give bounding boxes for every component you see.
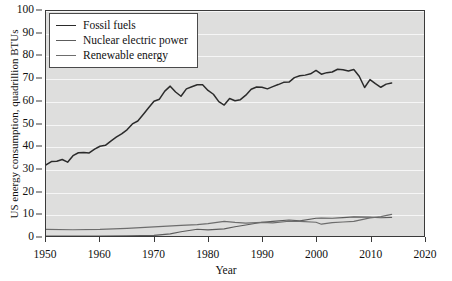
y-tick-mark (36, 123, 42, 124)
x-tick-mark (208, 237, 209, 242)
x-tick-label: 1960 (88, 248, 111, 260)
series-line-fossil-fuels (46, 69, 392, 165)
y-axis: US energy consumption, quadrillion BTUs … (0, 0, 45, 247)
x-tick-label: 1980 (196, 248, 219, 260)
x-tick-label: 2020 (414, 248, 437, 260)
y-tick-label: 10 (23, 209, 35, 221)
x-tick-mark (371, 237, 372, 242)
y-tick-mark (36, 168, 42, 169)
x-tick-mark (99, 237, 100, 242)
x-axis-title: Year (0, 264, 452, 276)
y-tick-mark (36, 78, 42, 79)
y-tick-mark (36, 146, 42, 147)
x-tick-label: 1970 (142, 248, 165, 260)
y-tick-label: 90 (23, 27, 35, 39)
y-tick-mark (36, 55, 42, 56)
y-tick-mark (36, 10, 42, 11)
x-tick-label: 2000 (305, 248, 328, 260)
y-tick-mark (36, 32, 42, 33)
x-tick-mark (262, 237, 263, 242)
y-tick-label: 30 (23, 163, 35, 175)
y-tick-mark (36, 100, 42, 101)
y-tick-label: 20 (23, 186, 35, 198)
legend-label-renewable-energy: Renewable energy (83, 49, 168, 62)
y-tick-mark (36, 191, 42, 192)
x-axis: 19501960197019801990200020102020 Year (0, 237, 452, 281)
legend-item-nuclear-electric-power[interactable]: Nuclear electric power (56, 33, 188, 48)
energy-consumption-chart: US energy consumption, quadrillion BTUs … (0, 0, 452, 281)
y-axis-title: US energy consumption, quadrillion BTUs (8, 17, 20, 232)
x-tick-mark (154, 237, 155, 242)
line-swatch-renewable-icon (56, 55, 76, 56)
series-line-renewable-energy (46, 214, 392, 229)
y-tick-label: 70 (23, 72, 35, 84)
legend-label-nuclear-electric-power: Nuclear electric power (83, 34, 188, 47)
line-swatch-fossil-icon (56, 25, 76, 26)
y-tick-label: 50 (23, 118, 35, 130)
legend-label-fossil-fuels: Fossil fuels (83, 19, 136, 32)
chart-legend: Fossil fuels Nuclear electric power Rene… (49, 13, 198, 68)
legend-item-renewable-energy[interactable]: Renewable energy (56, 48, 188, 63)
x-tick-label: 2010 (359, 248, 382, 260)
y-tick-label: 40 (23, 140, 35, 152)
x-tick-mark (425, 237, 426, 242)
series-line-nuclear-electric-power (46, 217, 392, 236)
x-tick-mark (316, 237, 317, 242)
y-tick-mark (36, 214, 42, 215)
y-tick-label: 60 (23, 95, 35, 107)
x-tick-label: 1950 (34, 248, 57, 260)
y-tick-label: 80 (23, 50, 35, 62)
x-tick-label: 1990 (251, 248, 274, 260)
legend-item-fossil-fuels[interactable]: Fossil fuels (56, 18, 188, 33)
line-swatch-nuclear-icon (56, 40, 76, 41)
y-tick-label: 100 (17, 4, 34, 16)
x-tick-mark (45, 237, 46, 242)
